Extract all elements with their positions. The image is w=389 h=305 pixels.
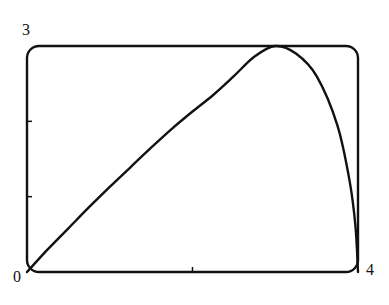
plot-area (0, 0, 389, 305)
axes-frame (27, 46, 358, 272)
y-max-label: 3 (22, 22, 30, 38)
origin-label: 0 (13, 269, 21, 285)
x-max-label: 4 (366, 262, 374, 278)
data-curve (27, 46, 358, 272)
axis-ticks (27, 121, 193, 272)
